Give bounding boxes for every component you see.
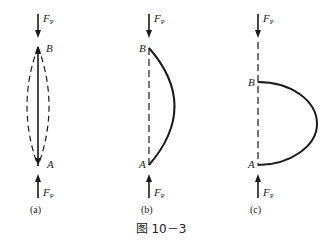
buckled-shape-solid: [149, 48, 175, 165]
force-arrow-bottom-icon: [255, 174, 261, 198]
buckled-shape-solid: [258, 82, 317, 165]
force-arrow-bottom-icon: [146, 174, 152, 198]
panel-label-c: (c): [250, 204, 261, 216]
buckling-diagram: FP B A FP (a) FP B A: [0, 0, 334, 243]
panel-b: FP B A FP (b): [138, 12, 175, 216]
panel-a: FP B A FP (a): [27, 12, 54, 216]
figure-caption: 图 10－3: [136, 222, 187, 236]
force-label-top: FP: [262, 12, 274, 26]
column-axis-double-arrow-icon: [35, 46, 41, 166]
force-label-bottom: FP: [153, 186, 165, 200]
point-label-b: B: [46, 42, 53, 54]
force-arrow-top-icon: [255, 14, 261, 38]
panel-label-b: (b): [141, 204, 153, 216]
panel-label-a: (a): [30, 204, 41, 216]
force-arrow-top-icon: [146, 14, 152, 38]
point-label-a: A: [247, 158, 255, 170]
force-label-bottom: FP: [262, 186, 274, 200]
force-label-bottom: FP: [42, 186, 54, 200]
panel-c: FP B A FP (c): [247, 12, 317, 216]
point-label-a: A: [46, 158, 54, 170]
force-arrow-bottom-icon: [35, 174, 41, 198]
point-label-a: A: [138, 158, 146, 170]
buckled-shape-left-dashed: [27, 47, 38, 166]
buckled-shape-right-dashed: [38, 47, 49, 166]
point-label-b: B: [248, 76, 255, 88]
force-arrow-top-icon: [35, 14, 41, 38]
force-label-top: FP: [153, 12, 165, 26]
point-label-b: B: [139, 42, 146, 54]
force-label-top: FP: [42, 12, 54, 26]
